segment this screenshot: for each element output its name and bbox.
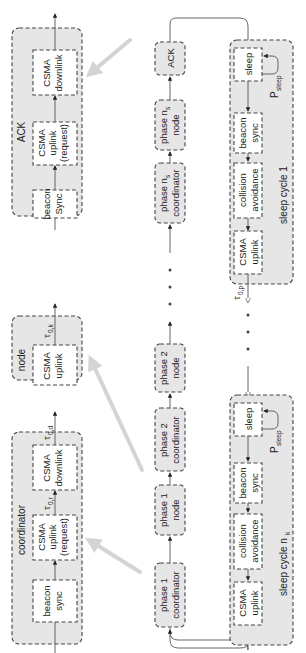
phase-1-node-line1: phase 1 (158, 493, 169, 527)
ack-detail-group: ACK beacon Sync CSMA uplink (request) CS… (12, 14, 82, 230)
phase-ack-label: ACK (165, 48, 176, 68)
sleep-cycle-1-group: sleep cycle 1 sleep P sleep beacon sync … (230, 40, 293, 302)
state-diagram: ACK beacon Sync CSMA uplink (request) CS… (0, 0, 306, 653)
sc1-collision-line1: collision (237, 173, 248, 207)
sleep-cycle-ellipsis (247, 314, 250, 351)
svg-text:phase n: phase n (158, 178, 169, 212)
zoom-arrows (92, 40, 142, 572)
coordinator-detail-title: coordinator (16, 504, 27, 555)
phase-2-coordinator-line2: coordinator (170, 416, 181, 464)
svg-text:sleep: sleep (275, 430, 283, 446)
phase-1-coordinator-line2: coordinator (170, 571, 181, 619)
node-uplink-line2: uplink (53, 353, 64, 378)
phase-ns-coordinator-line2: coordinator (170, 169, 181, 217)
svg-text:sleep cycle n: sleep cycle n (278, 538, 289, 596)
svg-text:0,p: 0,p (237, 286, 245, 295)
coord-beacon-line2: sync (53, 591, 64, 611)
coordinator-detail-group: coordinator beacon sync CSMA uplink (req… (12, 412, 82, 653)
ack-downlink-line1: CSMA (41, 59, 52, 87)
scnk-collision-line2: avoidance (249, 519, 260, 562)
svg-text:τ: τ (41, 334, 52, 338)
ack-beacon-line2: Sync (53, 193, 64, 214)
sc1-sleep-label: sleep (243, 53, 254, 76)
sleep-cycle-nk-group: sleep cycle n k sleep P sleep beacon syn… (230, 395, 293, 645)
svg-text:τ: τ (41, 506, 52, 510)
sc1-beacon-line1: beacon (237, 117, 248, 148)
ack-uplink-line2: uplink (47, 130, 58, 155)
coord-uplink-line1: CSMA (36, 523, 47, 551)
phase-2-node-line2: node (170, 357, 181, 378)
coord-uplink-line2: uplink (47, 524, 58, 549)
ack-uplink-line1: CSMA (36, 129, 47, 157)
phase-1-coordinator-line1: phase 1 (158, 578, 169, 612)
phase-ellipsis (169, 269, 172, 306)
coord-downlink-line1: CSMA (41, 454, 52, 482)
phase-2-node-line1: phase 2 (158, 351, 169, 385)
scnk-beacon-line1: beacon (237, 467, 248, 498)
svg-text:P: P (269, 91, 280, 98)
coord-uplink-line3: (request) (58, 518, 69, 556)
zoom-arrow-coordinator (92, 542, 140, 572)
sleep-cycle-1-title: sleep cycle 1 (278, 166, 289, 224)
coord-downlink-line2: downlink (53, 449, 64, 486)
svg-text:P: P (269, 446, 280, 453)
svg-text:0,d: 0,d (47, 426, 54, 435)
phase-ns-node-line2: node (170, 114, 181, 135)
zoom-arrow-ack (92, 40, 130, 72)
scnk-uplink-line1: CSMA (237, 589, 248, 617)
node-detail-title: node (16, 348, 27, 371)
zoom-arrow-node (92, 362, 142, 470)
ack-uplink-line3: (request) (58, 124, 69, 162)
scnk-sleep-label: sleep (243, 408, 254, 431)
svg-text:0,k: 0,k (47, 324, 54, 333)
ack-beacon-line1: beacon (41, 188, 52, 219)
ack-downlink-line2: downlink (53, 54, 64, 91)
svg-text:τ: τ (41, 436, 52, 440)
svg-text:0,r: 0,r (47, 497, 54, 505)
scnk-collision-line1: collision (237, 524, 248, 558)
scnk-uplink-line2: uplink (249, 590, 260, 615)
svg-text:sleep: sleep (275, 75, 283, 91)
node-detail-group: node CSMA uplink τ 0,k (12, 304, 82, 385)
svg-text:τ: τ (231, 296, 242, 300)
sc1-uplink-line2: uplink (249, 239, 260, 264)
sc1-uplink-line1: CSMA (237, 238, 248, 266)
sc1-collision-line2: avoidance (249, 168, 260, 211)
phase-2-coordinator-line1: phase 2 (158, 423, 169, 457)
sc1-beacon-line2: sync (249, 123, 260, 143)
coord-beacon-line1: beacon (41, 585, 52, 616)
node-uplink-line1: CSMA (41, 352, 52, 380)
svg-text:phase n: phase n (158, 110, 169, 144)
phase-1-node-line2: node (170, 499, 181, 520)
scnk-beacon-line2: sync (249, 473, 260, 493)
ack-detail-title: ACK (16, 121, 27, 142)
tau-0p-label: τ 0,p (231, 286, 245, 300)
